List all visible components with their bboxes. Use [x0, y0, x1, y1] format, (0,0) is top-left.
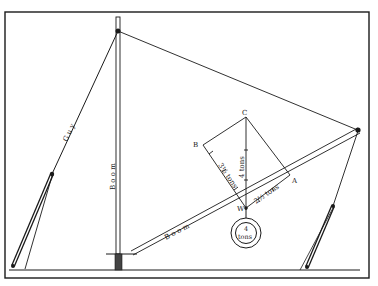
guy-label: G u y: [62, 123, 77, 143]
force-wa-label: 2½ tons: [253, 182, 281, 205]
boom-label: B o o m: [163, 222, 191, 242]
weight-unit: tons: [238, 233, 252, 241]
frame-border: [5, 12, 369, 278]
point-w-label: W: [237, 205, 245, 213]
topping-line: [118, 31, 360, 131]
force-bw-label: 3½ tons: [216, 162, 239, 191]
guy-rope: [52, 31, 118, 174]
mast: [106, 17, 137, 270]
weight-value: 4: [244, 225, 248, 233]
right-tackle: [300, 131, 358, 270]
force-parallelogram: [203, 117, 290, 210]
point-c-label: C: [242, 109, 247, 117]
force-cw-label: 4 tons: [238, 156, 246, 178]
left-tackle: [11, 172, 54, 269]
mast-label: B o o m: [109, 163, 117, 190]
point-a-label: A: [291, 177, 298, 185]
mast-footing: [115, 254, 122, 270]
point-b-label: B: [193, 141, 198, 149]
crane-force-diagram: B o o m G u y B o o m: [0, 0, 378, 286]
